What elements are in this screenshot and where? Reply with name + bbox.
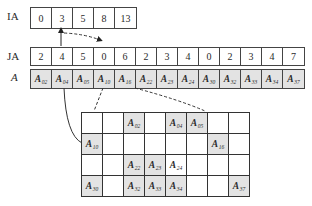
element-base: A (56, 74, 62, 84)
element-base: A (212, 139, 218, 149)
sparse-matrix: A02A04A05A10A16A22A23A24A30A32A33A34A37 (81, 112, 250, 197)
element-subscript: 30 (210, 79, 216, 85)
a-element: A33 (245, 74, 257, 85)
matrix-cell (208, 176, 229, 197)
element-subscript: 24 (189, 79, 195, 85)
a-cell: A10 (94, 70, 115, 88)
matrix-cell: A02 (124, 113, 145, 134)
a-element: A22 (140, 74, 152, 85)
matrix-cell (187, 155, 208, 176)
ja-cell: 0 (199, 48, 220, 65)
matrix-cell (82, 155, 103, 176)
matrix-cell: A30 (82, 176, 103, 197)
element-base: A (149, 160, 155, 170)
matrix-cell (229, 113, 250, 134)
element-subscript: 30 (93, 186, 99, 192)
matrix-element: A23 (149, 160, 161, 171)
element-base: A (128, 181, 134, 191)
matrix-element: A33 (149, 181, 161, 192)
element-base: A (77, 74, 83, 84)
a-to-matrix-dashed-left (94, 88, 103, 111)
element-subscript: 33 (252, 79, 258, 85)
element-base: A (35, 74, 41, 84)
matrix-cell (103, 155, 124, 176)
a-element: A30 (203, 74, 215, 85)
matrix-cell (103, 113, 124, 134)
ja-cell: 0 (94, 48, 115, 65)
element-base: A (86, 181, 92, 191)
element-base: A (224, 74, 230, 84)
ja-cell: 4 (52, 48, 73, 65)
matrix-element: A22 (128, 160, 140, 171)
element-subscript: 34 (273, 79, 279, 85)
a-cell: A04 (52, 70, 73, 88)
element-base: A (128, 160, 134, 170)
ia-ja-dashed-arrow (64, 33, 100, 40)
matrix-element: A34 (170, 181, 182, 192)
matrix-cell: A37 (229, 176, 250, 197)
matrix-element: A30 (86, 181, 98, 192)
ja-cell: 7 (283, 48, 304, 65)
element-base: A (98, 74, 104, 84)
a-cell: A37 (283, 70, 304, 88)
a-element: A34 (266, 74, 278, 85)
matrix-cell: A23 (145, 155, 166, 176)
ja-array: 2450623402347 (30, 47, 305, 66)
matrix-cell: A05 (187, 113, 208, 134)
matrix-cell: A22 (124, 155, 145, 176)
a-element: A10 (98, 74, 110, 85)
element-subscript: 33 (156, 186, 162, 192)
a-to-matrix-solid-curve (64, 88, 82, 143)
a-cell: A34 (262, 70, 283, 88)
ja-cell: 4 (262, 48, 283, 65)
a-cell: A32 (220, 70, 241, 88)
element-base: A (140, 74, 146, 84)
a-cell: A33 (241, 70, 262, 88)
element-base: A (170, 160, 176, 170)
element-base: A (161, 74, 167, 84)
ia-cell: 13 (115, 8, 136, 28)
ja-cell: 3 (241, 48, 262, 65)
element-subscript: 05 (84, 79, 90, 85)
element-base: A (170, 181, 176, 191)
matrix-element: A32 (128, 181, 140, 192)
element-base: A (86, 139, 92, 149)
ia-label: IA (7, 10, 19, 22)
element-base: A (170, 118, 176, 128)
a-cell: A16 (115, 70, 136, 88)
ia-cell: 3 (52, 8, 73, 28)
a-cell: A24 (178, 70, 199, 88)
a-element: A05 (77, 74, 89, 85)
element-subscript: 16 (219, 144, 225, 150)
matrix-element: A02 (128, 118, 140, 129)
a-element: A37 (287, 74, 299, 85)
matrix-element: A24 (170, 160, 182, 171)
ja-cell: 4 (178, 48, 199, 65)
a-to-matrix-dashed-right (135, 88, 205, 111)
element-subscript: 22 (135, 165, 141, 171)
matrix-cell (124, 134, 145, 155)
a-cell: A02 (31, 70, 52, 88)
a-element: A23 (161, 74, 173, 85)
matrix-cell: A16 (208, 134, 229, 155)
element-subscript: 23 (168, 79, 174, 85)
matrix-cell (145, 134, 166, 155)
element-base: A (266, 74, 272, 84)
element-subscript: 23 (156, 165, 162, 171)
matrix-cell (145, 113, 166, 134)
a-element: A02 (35, 74, 47, 85)
a-element: A24 (182, 74, 194, 85)
a-element: A32 (224, 74, 236, 85)
matrix-cell (208, 155, 229, 176)
ja-cell: 2 (220, 48, 241, 65)
a-array: A02A04A05A10A16A22A23A24A30A32A33A34A37 (30, 69, 305, 89)
matrix-cell (187, 176, 208, 197)
element-subscript: 04 (177, 123, 183, 129)
matrix-cell (82, 113, 103, 134)
element-subscript: 02 (135, 123, 141, 129)
a-cell: A22 (136, 70, 157, 88)
ja-label: JA (7, 50, 19, 62)
element-base: A (245, 74, 251, 84)
element-subscript: 02 (42, 79, 48, 85)
a-cell: A23 (157, 70, 178, 88)
